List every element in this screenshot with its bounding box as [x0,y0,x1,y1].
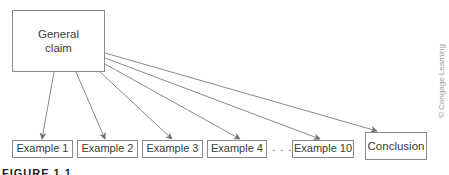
example-3-label: Example 3 [147,142,199,156]
conclusion-label: Conclusion [368,139,425,153]
example-1-label: Example 1 [17,142,69,156]
arrow-to-example-1 [42,72,54,139]
arrow-to-example-10 [105,58,320,139]
example-2-box: Example 2 [77,140,138,158]
ellipsis: . . . [272,141,292,153]
conclusion-box: Conclusion [365,132,427,160]
example-10-label: Example 10 [294,142,352,156]
example-1-box: Example 1 [12,140,73,158]
arrow-to-conclusion [105,53,377,131]
general-claim-box: General claim [12,10,105,72]
example-10-box: Example 10 [292,140,354,158]
arrow-to-example-3 [100,72,172,139]
example-4-label: Example 4 [211,142,263,156]
general-claim-label: General claim [34,27,84,56]
copyright-credit: © Cengage Learning [437,44,446,118]
arrow-to-example-2 [76,72,105,139]
example-2-label: Example 2 [82,142,134,156]
example-4-box: Example 4 [207,140,267,158]
figure-label: FIGURE 1.1 [2,167,72,175]
example-3-box: Example 3 [142,140,203,158]
